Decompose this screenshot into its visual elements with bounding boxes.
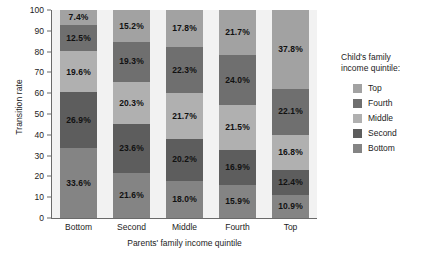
legend-item[interactable]: Bottom bbox=[353, 141, 435, 156]
legend: Child's family income quintile: TopFourt… bbox=[341, 52, 435, 156]
bar-segment[interactable]: 15.9% bbox=[219, 185, 256, 218]
bar-segment[interactable]: 22.3% bbox=[166, 47, 203, 93]
bar-segment-label: 20.2% bbox=[172, 155, 197, 164]
bar-segment[interactable]: 15.2% bbox=[113, 10, 150, 42]
legend-item[interactable]: Top bbox=[353, 81, 435, 96]
bar-segment[interactable]: 16.9% bbox=[219, 150, 256, 185]
bar-segment-label: 16.8% bbox=[278, 148, 303, 157]
legend-item-label: Second bbox=[368, 128, 397, 138]
bar-segment[interactable]: 21.6% bbox=[113, 173, 150, 218]
bar-segment[interactable]: 10.9% bbox=[272, 195, 309, 218]
bar-segment[interactable]: 12.5% bbox=[60, 25, 97, 51]
legend-title-line-1: Child's family bbox=[341, 52, 435, 63]
bar-column[interactable]: 10.9%12.4%16.8%22.1%37.8% bbox=[272, 10, 309, 218]
bar-stack: 18.0%20.2%21.7%22.3%17.8% bbox=[166, 10, 203, 218]
legend-item-label: Fourth bbox=[368, 98, 393, 108]
bar-segment-label: 33.6% bbox=[66, 179, 91, 188]
bar-segment[interactable]: 23.6% bbox=[113, 124, 150, 173]
stacked-bar-chart: Transition rate 0102030405060708090100 3… bbox=[0, 0, 435, 257]
legend-item[interactable]: Middle bbox=[353, 111, 435, 126]
bar-stack: 21.6%23.6%20.3%19.3%15.2% bbox=[113, 10, 150, 218]
legend-item-label: Bottom bbox=[368, 143, 395, 153]
bar-segment-label: 15.9% bbox=[225, 197, 250, 206]
legend-swatch-icon bbox=[353, 144, 362, 153]
bar-segment-label: 20.3% bbox=[119, 99, 144, 108]
y-axis-tick-label: 60 bbox=[35, 89, 44, 98]
bar-segment-label: 21.7% bbox=[172, 112, 197, 121]
bar-segment[interactable]: 18.0% bbox=[166, 181, 203, 218]
bar-segment[interactable]: 26.9% bbox=[60, 92, 97, 148]
bar-segment[interactable]: 7.4% bbox=[60, 10, 97, 25]
y-axis-tick-label: 10 bbox=[35, 193, 44, 202]
bar-segment-label: 37.8% bbox=[278, 45, 303, 54]
bar-segment-label: 10.9% bbox=[278, 202, 303, 211]
x-axis-tick-labels: BottomSecondMiddleFourthTop bbox=[52, 222, 317, 236]
bar-stack: 33.6%26.9%19.6%12.5%7.4% bbox=[60, 10, 97, 218]
bar-segment-label: 15.2% bbox=[119, 22, 144, 31]
bar-segment-label: 22.3% bbox=[172, 66, 197, 75]
bar-segment[interactable]: 22.1% bbox=[272, 89, 309, 135]
bar-segment-label: 19.3% bbox=[119, 57, 144, 66]
legend-item-label: Top bbox=[368, 83, 382, 93]
x-axis-line bbox=[51, 218, 317, 219]
y-axis-tick-label: 40 bbox=[35, 131, 44, 140]
bar-segment[interactable]: 19.3% bbox=[113, 42, 150, 82]
bar-segment[interactable]: 37.8% bbox=[272, 10, 309, 89]
legend-items: TopFourthMiddleSecondBottom bbox=[353, 81, 435, 156]
x-axis-tick-label: Top bbox=[251, 222, 331, 232]
bar-segment[interactable]: 16.8% bbox=[272, 135, 309, 170]
bar-segment[interactable]: 24.0% bbox=[219, 55, 256, 105]
legend-item[interactable]: Second bbox=[353, 126, 435, 141]
bar-stack: 10.9%12.4%16.8%22.1%37.8% bbox=[272, 10, 309, 218]
bar-segment-label: 7.4% bbox=[69, 13, 89, 22]
legend-item[interactable]: Fourth bbox=[353, 96, 435, 111]
y-axis-tick-label: 80 bbox=[35, 47, 44, 56]
y-axis-tick-label: 100 bbox=[30, 6, 44, 15]
legend-title: Child's family income quintile: bbox=[341, 52, 435, 75]
bar-segment-label: 17.8% bbox=[172, 24, 197, 33]
y-axis-tick-label: 30 bbox=[35, 151, 44, 160]
bar-segment-label: 16.9% bbox=[225, 163, 250, 172]
bar-segment[interactable]: 20.3% bbox=[113, 82, 150, 124]
bar-segment-label: 12.4% bbox=[278, 178, 303, 187]
bar-column[interactable]: 33.6%26.9%19.6%12.5%7.4% bbox=[60, 10, 97, 218]
y-axis-tick-label: 70 bbox=[35, 68, 44, 77]
y-axis: 0102030405060708090100 bbox=[26, 10, 51, 219]
y-axis-tick-label: 0 bbox=[39, 214, 44, 223]
y-axis-tick-label: 20 bbox=[35, 172, 44, 181]
y-axis-title: Transition rate bbox=[14, 57, 24, 157]
bar-segment[interactable]: 20.2% bbox=[166, 139, 203, 181]
bar-segment-label: 18.0% bbox=[172, 195, 197, 204]
bar-stack: 15.9%16.9%21.5%24.0%21.7% bbox=[219, 10, 256, 218]
legend-swatch-icon bbox=[353, 129, 362, 138]
bar-segment-label: 23.6% bbox=[119, 144, 144, 153]
bar-segment[interactable]: 21.5% bbox=[219, 105, 256, 150]
bar-segment-label: 12.5% bbox=[66, 34, 91, 43]
legend-swatch-icon bbox=[353, 114, 362, 123]
bar-column[interactable]: 18.0%20.2%21.7%22.3%17.8% bbox=[166, 10, 203, 218]
bar-segment[interactable]: 19.6% bbox=[60, 51, 97, 92]
bar-segment-label: 21.6% bbox=[119, 191, 144, 200]
legend-swatch-icon bbox=[353, 99, 362, 108]
bar-segment-label: 21.7% bbox=[225, 28, 250, 37]
bar-segment-label: 24.0% bbox=[225, 76, 250, 85]
bars-layer: 33.6%26.9%19.6%12.5%7.4%21.6%23.6%20.3%1… bbox=[52, 10, 317, 218]
bar-segment[interactable]: 21.7% bbox=[166, 93, 203, 138]
legend-item-label: Middle bbox=[368, 113, 393, 123]
bar-segment-label: 22.1% bbox=[278, 107, 303, 116]
bar-segment-label: 26.9% bbox=[66, 116, 91, 125]
legend-swatch-icon bbox=[353, 84, 362, 93]
bar-segment[interactable]: 17.8% bbox=[166, 10, 203, 47]
bar-column[interactable]: 21.6%23.6%20.3%19.3%15.2% bbox=[113, 10, 150, 218]
y-axis-tick-label: 90 bbox=[35, 27, 44, 36]
bar-segment[interactable]: 33.6% bbox=[60, 148, 97, 218]
y-axis-tick-label: 50 bbox=[35, 110, 44, 119]
x-axis-title: Parents' family income quintile bbox=[52, 238, 317, 248]
bar-column[interactable]: 15.9%16.9%21.5%24.0%21.7% bbox=[219, 10, 256, 218]
bar-segment[interactable]: 12.4% bbox=[272, 170, 309, 196]
bar-segment[interactable]: 21.7% bbox=[219, 10, 256, 55]
legend-title-line-2: income quintile: bbox=[341, 63, 435, 74]
bar-segment-label: 21.5% bbox=[225, 123, 250, 132]
bar-segment-label: 19.6% bbox=[66, 68, 91, 77]
